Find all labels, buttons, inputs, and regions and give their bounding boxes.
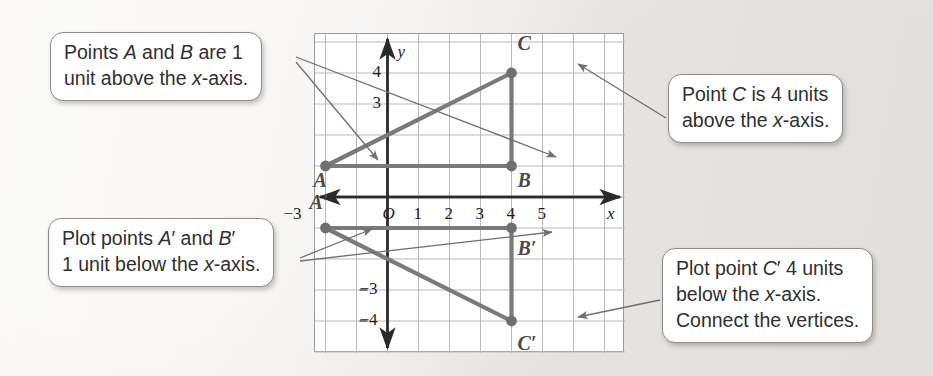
callout-line: Points A and B are 1 [64,40,248,66]
callout-line: unit above the x-axis. [64,66,248,92]
callout-line: Point C is 4 units [682,82,829,108]
callout-line: below the x-axis. [676,282,859,308]
x-tick--3: −3 [284,204,302,224]
x-tick-5: 5 [538,204,547,224]
point-label-C-prime: C′ [518,332,537,355]
plot-c-prime-callout: Plot point C′ 4 unitsbelow the x-axis.Co… [662,248,873,343]
figure-stage: ABCA′B′C′−3O1234543−3−4yx Points A and B… [0,0,933,376]
y-tick--3: −3 [360,279,378,299]
point-label-A: A [314,169,327,192]
vertex-A-prime [320,223,331,234]
vertex-C [506,68,517,79]
y-tick-4: 4 [373,62,382,82]
callout-line: 1 unit below the x-axis. [62,252,260,278]
callout-line: above the x-axis. [682,108,829,134]
point-label-B: B [518,169,531,192]
point-label-B-prime: B′ [518,237,537,260]
triangle-ABC [326,73,512,166]
point-c-callout: Point C is 4 unitsabove the x-axis. [668,74,843,143]
point-label-A-prime: A′ [310,191,329,214]
x-tick-3: 3 [476,204,485,224]
point-label-C: C [518,32,531,55]
callout-line: Plot points A′ and B′ [62,226,260,252]
vertex-B-prime [506,223,517,234]
x-tick-1: 1 [414,204,423,224]
plot-a-prime-b-prime-callout: Plot points A′ and B′1 unit below the x-… [48,218,274,287]
x-tick-2: 2 [445,204,454,224]
y-axis-label: y [398,42,406,62]
x-tick-origin: O [383,204,395,224]
callout-line: Plot point C′ 4 units [676,256,859,282]
coordinate-grid: ABCA′B′C′−3O1234543−3−4yx [314,33,624,352]
x-axis-label: x [607,204,615,224]
points-ab-callout: Points A and B are 1unit above the x-axi… [50,32,262,101]
triangles-layer [315,34,625,353]
vertex-C-prime [506,316,517,327]
vertex-B [506,161,517,172]
triangle-A'B'C' [326,228,512,321]
x-tick-4: 4 [507,204,516,224]
y-tick-3: 3 [373,93,382,113]
callout-line: Connect the vertices. [676,308,859,334]
y-tick--4: −4 [360,310,378,330]
